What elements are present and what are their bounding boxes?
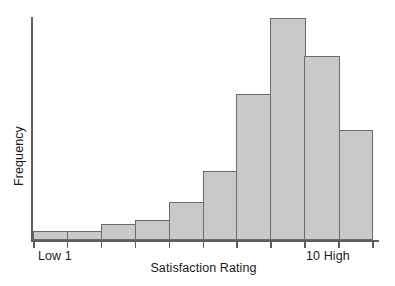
x-axis-tick xyxy=(304,242,306,248)
x-axis-tick xyxy=(169,242,171,248)
x-axis-tick xyxy=(135,242,137,248)
histogram-bar xyxy=(101,224,136,240)
x-axis-tick xyxy=(67,242,69,248)
histogram-chart: Frequency Low 1 10 High Satisfaction Rat… xyxy=(0,0,395,286)
histogram-bar xyxy=(270,18,305,240)
x-axis-tick xyxy=(101,242,103,248)
histogram-bar xyxy=(236,94,271,240)
x-axis-tick xyxy=(338,242,340,248)
histogram-bar xyxy=(135,220,170,240)
x-axis-line xyxy=(31,240,379,242)
x-axis-tick xyxy=(203,242,205,248)
histogram-bar xyxy=(169,202,204,240)
x-axis-tick xyxy=(372,242,374,248)
x-axis-tick xyxy=(33,242,35,248)
histogram-bar xyxy=(33,231,68,240)
histogram-bar xyxy=(338,130,373,240)
x-axis-title: Satisfaction Rating xyxy=(0,261,395,275)
plot-area xyxy=(33,16,372,240)
histogram-bar xyxy=(67,231,102,240)
histogram-bar xyxy=(203,171,238,240)
y-axis-title: Frequency xyxy=(12,41,28,271)
x-axis-tick xyxy=(236,242,238,248)
x-axis-tick xyxy=(270,242,272,248)
histogram-bar xyxy=(304,56,339,240)
